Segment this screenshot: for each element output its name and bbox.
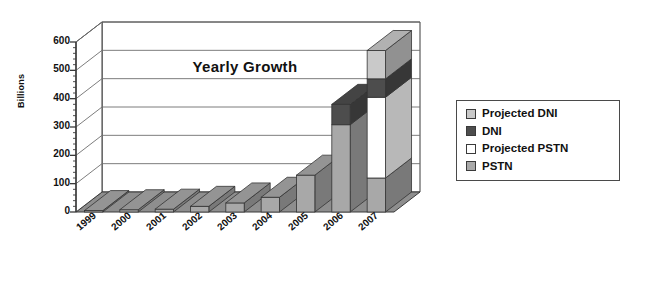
y-axis: 6005004003002001000 xyxy=(30,0,70,289)
legend-item[interactable]: Projected PSTN xyxy=(466,143,611,155)
y-tick-label: 200 xyxy=(36,149,70,159)
y-tick-label: 600 xyxy=(36,36,70,46)
plot-svg xyxy=(72,16,422,236)
chart-figure: Billions 6005004003002001000 Yearly Grow… xyxy=(0,0,646,289)
y-tick-label: 100 xyxy=(36,178,70,188)
y-axis-title: Billions xyxy=(16,38,26,108)
bar-2007 xyxy=(367,31,411,213)
legend-swatch-icon xyxy=(466,126,476,136)
legend-swatch-icon xyxy=(466,161,476,171)
legend: Projected DNIDNIProjected PSTNPSTN xyxy=(456,100,620,181)
legend-label: DNI xyxy=(482,126,502,138)
y-tick-label: 300 xyxy=(36,121,70,131)
legend-swatch-icon xyxy=(466,144,476,154)
y-tick-label: 0 xyxy=(36,206,70,216)
y-tick-label: 400 xyxy=(36,93,70,103)
plot-area xyxy=(72,16,422,236)
legend-label: Projected DNI xyxy=(482,108,557,120)
legend-item[interactable]: PSTN xyxy=(466,161,611,173)
chart-title: Yearly Growth xyxy=(150,58,340,75)
legend-item[interactable]: Projected DNI xyxy=(466,108,611,120)
legend-item[interactable]: DNI xyxy=(466,126,611,138)
legend-label: Projected PSTN xyxy=(482,143,568,155)
legend-label: PSTN xyxy=(482,161,513,173)
y-tick-label: 500 xyxy=(36,64,70,74)
legend-swatch-icon xyxy=(466,109,476,119)
